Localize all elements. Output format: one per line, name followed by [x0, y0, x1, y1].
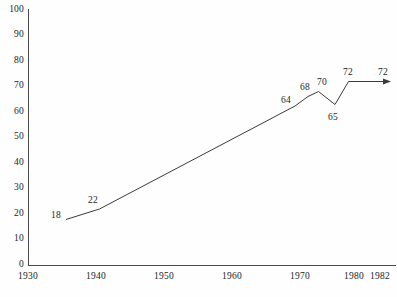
data-point-label-72-1980: 72: [343, 67, 353, 77]
data-point-label-70: 70: [317, 77, 327, 87]
line-chart: 100 90 80 70 60 50 40 30 20 10 0 1930 19…: [0, 0, 397, 297]
data-point-label-68: 68: [300, 82, 310, 92]
data-point-label-64: 64: [281, 95, 291, 105]
x-tick-label-1940: 1940: [79, 271, 113, 281]
line-end-arrow-icon: [383, 78, 391, 84]
y-tick-label-30: 30: [2, 182, 24, 192]
y-tick-label-10: 10: [2, 233, 24, 243]
data-point-label-18: 18: [51, 210, 61, 220]
data-point-label-22: 22: [88, 195, 98, 205]
y-tick-label-50: 50: [2, 131, 24, 141]
x-tick-label-1950: 1950: [147, 271, 181, 281]
y-tick-label-70: 70: [2, 80, 24, 90]
y-tick-label-80: 80: [2, 55, 24, 65]
x-tick-label-1960: 1960: [215, 271, 249, 281]
data-point-label-72-1982: 72: [378, 67, 388, 77]
data-series-line: [66, 82, 388, 220]
x-tick-label-1970: 1970: [283, 271, 317, 281]
y-tick-label-90: 90: [2, 29, 24, 39]
x-tick-label-1982: 1982: [363, 271, 397, 281]
y-tick-label-20: 20: [2, 208, 24, 218]
x-tick-label-1930: 1930: [11, 271, 45, 281]
y-tick-label-0: 0: [2, 259, 24, 269]
data-point-label-65: 65: [328, 112, 338, 122]
y-tick-label-60: 60: [2, 106, 24, 116]
y-tick-label-40: 40: [2, 157, 24, 167]
chart-plot-area: [0, 0, 397, 297]
y-tick-label-100: 100: [2, 4, 24, 14]
